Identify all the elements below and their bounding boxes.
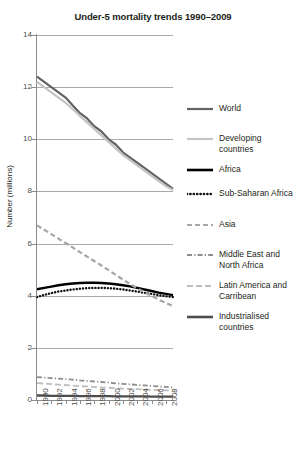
x-axis-tick-label: 1998 xyxy=(98,388,107,406)
y-axis-tick xyxy=(31,139,37,140)
legend-swatch-icon xyxy=(187,188,213,200)
x-axis-tick-label: 2008 xyxy=(170,388,179,406)
x-axis-tick-label: 1996 xyxy=(84,388,93,406)
legend-label: Industrialised countries xyxy=(219,311,269,332)
x-axis-tick-label: 2004 xyxy=(141,388,150,406)
y-axis-tick xyxy=(31,191,37,192)
y-axis-tick-label: 0 xyxy=(6,395,32,404)
x-axis-tick xyxy=(66,400,67,404)
x-axis-tick xyxy=(80,400,81,404)
legend-item[interactable]: Middle East and North Africa xyxy=(187,249,280,270)
x-axis-tick xyxy=(109,400,110,404)
y-axis-title: Number (millions) xyxy=(5,132,14,262)
legend-label: Middle East and North Africa xyxy=(219,249,280,270)
y-axis-tick-label: 4 xyxy=(6,291,32,300)
legend-swatch-icon xyxy=(187,164,213,176)
y-axis-tick xyxy=(31,400,37,401)
y-axis-tick xyxy=(31,35,37,36)
y-axis-tick xyxy=(31,87,37,88)
legend-item[interactable]: Industrialised countries xyxy=(187,311,269,332)
y-axis-tick xyxy=(31,244,37,245)
chart-title: Under-5 mortality trends 1990–2009 xyxy=(0,11,306,22)
legend-swatch-icon xyxy=(187,280,213,292)
x-axis-tick-label: 2000 xyxy=(113,388,122,406)
x-axis-tick xyxy=(37,400,38,404)
y-axis-tick-label: 12 xyxy=(6,82,32,91)
x-axis-tick-label: 2002 xyxy=(127,388,136,406)
chart-container: Under-5 mortality trends 1990–2009 14121… xyxy=(0,0,306,453)
y-axis-tick-label: 14 xyxy=(6,30,32,39)
legend-swatch-icon xyxy=(187,133,213,145)
legend-swatch-icon xyxy=(187,103,213,115)
y-axis-tick xyxy=(31,348,37,349)
y-axis-tick-label: 2 xyxy=(6,343,32,352)
y-axis-tick xyxy=(31,296,37,297)
x-axis-tick xyxy=(94,400,95,404)
legend-label: World xyxy=(219,103,241,114)
x-axis-tick-label: 2006 xyxy=(156,388,165,406)
legend-item[interactable]: Sub-Saharan Africa xyxy=(187,188,293,200)
legend-swatch-icon xyxy=(187,311,213,323)
legend-swatch-icon xyxy=(187,249,213,261)
series-lines xyxy=(37,35,173,400)
legend-item[interactable]: Africa xyxy=(187,164,241,176)
legend-label: Sub-Saharan Africa xyxy=(219,188,293,199)
x-axis-tick xyxy=(166,400,167,404)
x-axis-tick xyxy=(123,400,124,404)
series-line xyxy=(37,377,173,387)
series-line xyxy=(37,77,173,189)
plot-area xyxy=(37,35,173,400)
x-axis-tick xyxy=(137,400,138,404)
legend-item[interactable]: Developing countries xyxy=(187,133,262,154)
x-axis-tick xyxy=(152,400,153,404)
legend-label: Asia xyxy=(219,219,236,230)
legend-item[interactable]: Asia xyxy=(187,219,236,231)
legend-swatch-icon xyxy=(187,219,213,231)
legend-item[interactable]: Latin America and Carribean xyxy=(187,280,287,301)
x-axis-tick-label: 1992 xyxy=(55,388,64,406)
series-line xyxy=(37,225,173,306)
legend-item[interactable]: World xyxy=(187,103,241,115)
x-axis-tick-label: 1990 xyxy=(41,388,50,406)
x-axis-tick xyxy=(51,400,52,404)
legend-label: Latin America and Carribean xyxy=(219,280,287,301)
legend-label: Developing countries xyxy=(219,133,262,154)
legend-label: Africa xyxy=(219,164,241,175)
x-axis-tick-label: 1994 xyxy=(70,388,79,406)
